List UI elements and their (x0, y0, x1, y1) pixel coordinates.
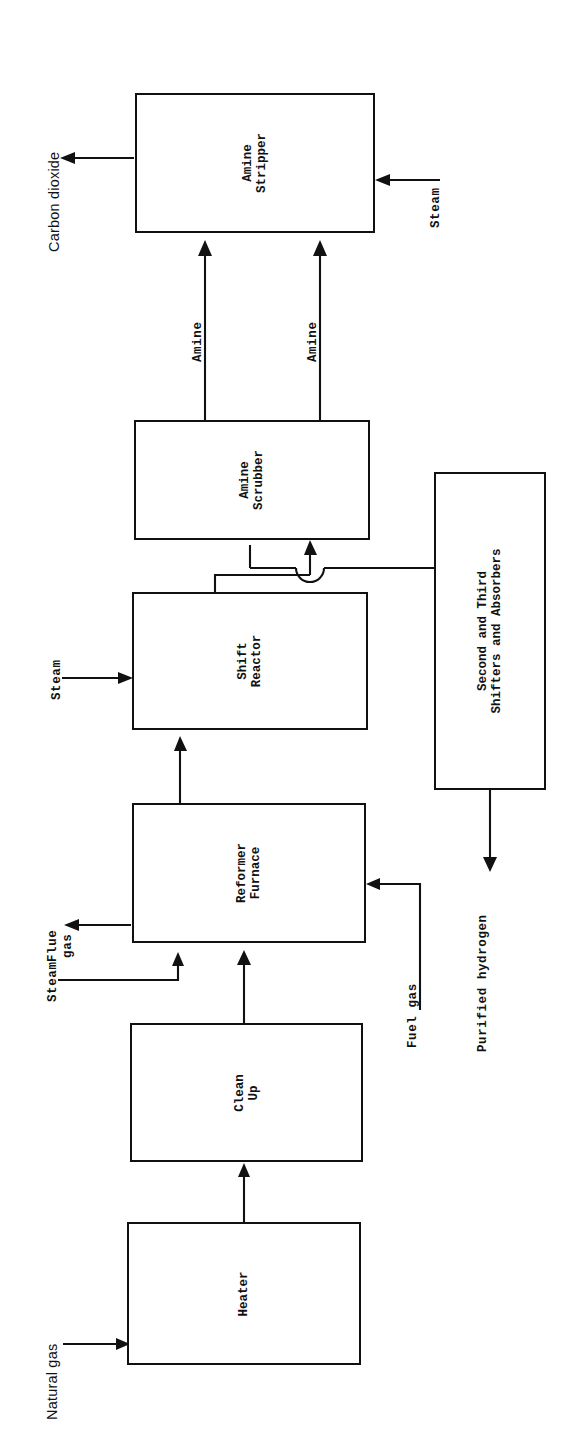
arrowhead-steam-to-stripper (375, 174, 390, 186)
arrowhead-reformer-to-shift (174, 736, 187, 751)
unit-shift-reactor-label: Shift Reactor (236, 635, 264, 688)
wire-steam-to-reformer (58, 962, 178, 980)
arrowhead-cleanup-to-reformer (237, 950, 251, 965)
unit-clean-up-label: Clean Up (233, 1074, 261, 1112)
unit-second-and-third-shifters-label: Second and Third Shifters and Absorbers (476, 548, 504, 713)
label-purified-hydrogen: Purified hydrogen (476, 914, 491, 1052)
unit-shift-reactor[interactable]: Shift Reactor (132, 592, 368, 730)
label-amine-rich: Amine (191, 321, 206, 362)
label-flue-gas: Flue gas (46, 930, 77, 962)
label-steam-shift: Steam (50, 659, 65, 700)
label-fuel-gas: Fuel gas (406, 983, 421, 1048)
process-flow-diagram: Amine Stripper Amine Scrubber Shift Reac… (0, 0, 573, 1443)
arrowhead-steam-to-reformer (172, 952, 184, 966)
label-natural-gas: Natural gas (44, 1344, 62, 1420)
unit-clean-up[interactable]: Clean Up (130, 1023, 363, 1162)
wire-shift-to-scrubber-seg1 (215, 575, 310, 592)
unit-amine-scrubber-label: Amine Scrubber (238, 450, 266, 510)
label-carbon-dioxide: Carbon dioxide (46, 152, 64, 252)
label-steam-stripper: Steam (429, 187, 444, 228)
arrowhead-fuel-gas (366, 878, 380, 890)
arrowhead-amine-lean (313, 240, 327, 256)
unit-amine-stripper[interactable]: Amine Stripper (135, 93, 375, 233)
unit-amine-stripper-label: Amine Stripper (241, 133, 269, 193)
arrowhead-steam-to-shift (118, 672, 133, 684)
unit-amine-scrubber[interactable]: Amine Scrubber (134, 420, 370, 540)
label-steam-reformer: Steam (46, 961, 61, 1002)
unit-second-and-third-shifters[interactable]: Second and Third Shifters and Absorbers (434, 472, 546, 790)
unit-heater[interactable]: Heater (127, 1222, 361, 1365)
label-amine-lean: Amine (306, 321, 321, 362)
unit-reformer-furnace[interactable]: Reformer Furnace (132, 803, 366, 943)
arrowhead-shift-to-scrubber (304, 540, 317, 555)
arrowhead-amine-rich (198, 240, 212, 256)
unit-reformer-furnace-label: Reformer Furnace (235, 843, 263, 903)
unit-heater-label: Heater (237, 1271, 251, 1316)
line-hop-arc (296, 568, 324, 582)
arrowhead-heater-to-cleanup (238, 1163, 250, 1177)
arrowhead-purified-hydrogen (483, 857, 497, 872)
